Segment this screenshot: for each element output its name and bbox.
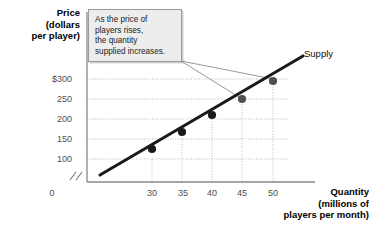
vertical-gridlines [152,79,273,182]
supply-curve-figure: Price (dollars per player) Quantity (mil… [0,0,369,231]
data-point-35-150 [178,128,186,136]
axis-break-marks [70,172,82,180]
plot-area [0,0,369,231]
annotation-callout-text: As the price of players rises, the quant… [95,15,181,57]
data-point-45-250 [238,95,246,103]
supply-curve-label: Supply [304,48,333,59]
horizontal-gridlines [87,79,290,159]
data-point-30-100 [148,145,156,153]
data-points [148,77,277,153]
annotation-callout: As the price of players rises, the quant… [88,9,182,62]
data-point-40-200 [208,111,216,119]
data-point-50-300 [269,77,277,85]
